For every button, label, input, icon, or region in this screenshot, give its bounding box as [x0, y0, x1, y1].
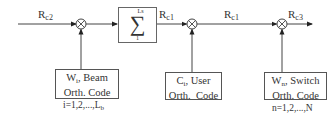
- summation-block: Ls ∑ 1: [119, 8, 156, 41]
- signal-label-rc2: Rc2: [38, 9, 53, 23]
- summation-icon: ∑: [119, 14, 156, 34]
- switch-code-title: Wn, Switch: [265, 75, 326, 90]
- beam-index-range: i=1,2,...,Lb: [63, 100, 104, 112]
- beam-code-subtitle: Orth. Code: [56, 87, 118, 99]
- block-diagram: Rc2 Rc1 Rc1 Rc3 Ls ∑ 1 Wi, Beam Orth. Co…: [0, 0, 334, 118]
- beam-orth-code-block: Wi, Beam Orth. Code: [55, 69, 119, 99]
- user-orth-code-block: Ci, User Orth. Code: [165, 72, 222, 100]
- multiplier-1-icon: [76, 19, 86, 29]
- signal-label-rc1-sum-output: Rc1: [159, 9, 174, 23]
- multiplier-3-icon: [277, 19, 287, 29]
- switch-code-subtitle: Orth. Code: [265, 90, 326, 102]
- summation-lower-limit: 1: [119, 35, 156, 41]
- switch-orth-code-block: Wn, Switch Orth. Code: [264, 72, 327, 100]
- signal-label-rc1-mid: Rc1: [224, 9, 239, 23]
- multiplier-2-icon: [187, 19, 197, 29]
- beam-code-title: Wi, Beam: [56, 72, 118, 87]
- user-code-subtitle: Orth. Code: [166, 90, 221, 102]
- signal-label-rc3: Rc3: [288, 9, 303, 23]
- user-code-title: Ci, User: [166, 75, 221, 90]
- switch-index-range: n=1,2,...,N: [272, 103, 313, 113]
